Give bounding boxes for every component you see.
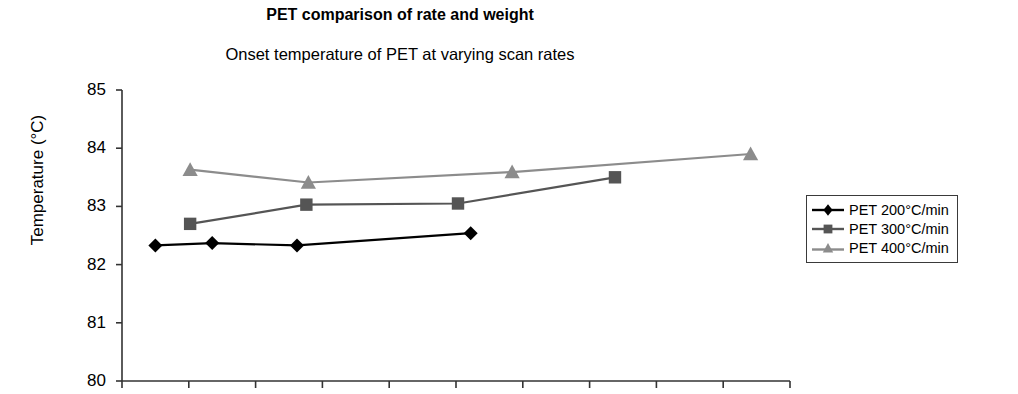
series-line bbox=[155, 233, 470, 245]
series-line bbox=[190, 177, 615, 224]
legend-item: PET 200°C/min bbox=[811, 200, 952, 219]
data-point-square-icon bbox=[300, 198, 312, 210]
data-point-diamond-icon bbox=[148, 238, 162, 252]
legend-key-diamond-icon bbox=[811, 202, 845, 218]
data-point-square-icon bbox=[609, 171, 621, 183]
data-point-diamond-icon bbox=[290, 238, 304, 252]
data-series bbox=[183, 146, 759, 188]
data-point-triangle-icon bbox=[183, 162, 198, 176]
legend-item: PET 300°C/min bbox=[811, 219, 952, 238]
chart-legend: PET 200°C/min PET 300°C/min PET 400°C/mi… bbox=[806, 195, 958, 263]
legend-key-triangle-icon bbox=[811, 240, 845, 256]
data-point-square-icon bbox=[452, 197, 464, 209]
legend-label: PET 400°C/min bbox=[849, 240, 949, 256]
series-line bbox=[190, 154, 751, 183]
legend-label: PET 300°C/min bbox=[849, 221, 949, 237]
legend-label: PET 200°C/min bbox=[849, 202, 949, 218]
data-series bbox=[184, 171, 621, 230]
data-point-square-icon bbox=[184, 218, 196, 230]
data-point-diamond-icon bbox=[205, 236, 219, 250]
data-point-diamond-icon bbox=[464, 226, 478, 240]
data-series bbox=[148, 226, 477, 252]
legend-item: PET 400°C/min bbox=[811, 238, 952, 257]
chart-figure: PET comparison of rate and weight Onset … bbox=[0, 0, 1018, 394]
legend-key-square-icon bbox=[811, 221, 845, 237]
